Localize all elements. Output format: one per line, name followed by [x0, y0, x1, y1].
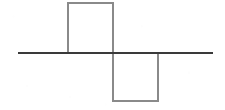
- figure-canvas: [0, 0, 225, 110]
- square-wave-svg: [0, 0, 225, 110]
